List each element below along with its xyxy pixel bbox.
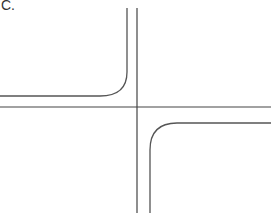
lower-right-curve <box>150 123 271 213</box>
hyperbola-diagram <box>0 0 271 213</box>
upper-left-curve <box>0 8 127 96</box>
